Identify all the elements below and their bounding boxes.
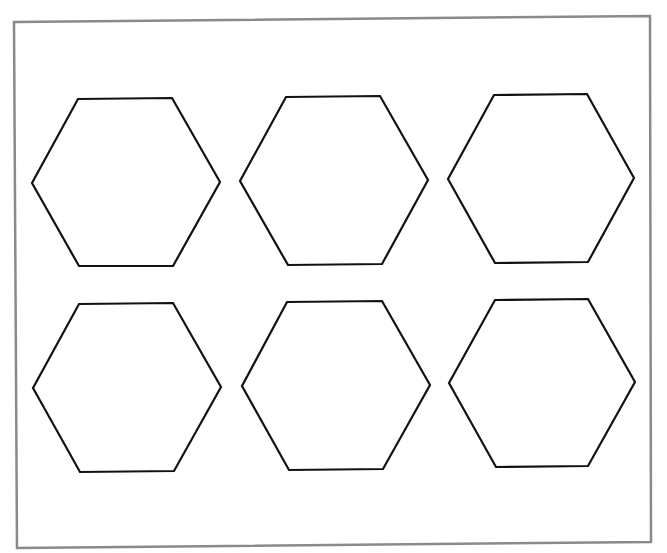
- hexagon-r2-c3: [449, 299, 635, 467]
- hexagon-worksheet: [0, 0, 667, 553]
- hexagon-r1-c2: [240, 96, 428, 265]
- hexagon-r2-c1: [33, 303, 221, 472]
- hexagon-r2-c2: [242, 301, 430, 470]
- hexagon-grid: [32, 94, 635, 472]
- hexagon-r1-c1: [32, 98, 220, 266]
- hexagon-r1-c3: [448, 94, 634, 263]
